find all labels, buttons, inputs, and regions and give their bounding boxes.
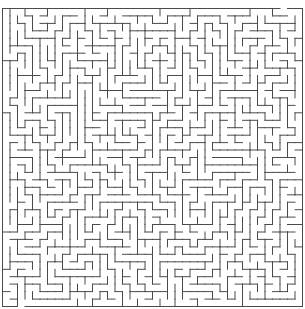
- maze-wall-path: [3, 9, 303, 307]
- maze-canvas: [0, 0, 305, 309]
- maze-walls: [3, 9, 303, 307]
